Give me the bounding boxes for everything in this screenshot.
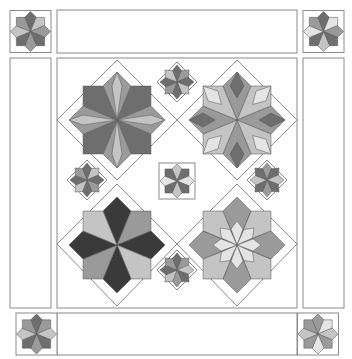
star-icon (304, 12, 344, 52)
left-border-strip (10, 58, 51, 308)
star-icon (17, 314, 57, 354)
star-icon (11, 12, 51, 52)
small-star-bottom (160, 253, 194, 287)
small-star-left (70, 163, 104, 197)
center-star-block (159, 163, 195, 199)
corner-block-bottom-left (16, 313, 57, 355)
quilt-diagram (0, 0, 352, 359)
right-border-strip (303, 58, 344, 308)
large-star-top-right (189, 72, 285, 168)
bottom-border-strip (57, 313, 297, 355)
small-star-right (250, 163, 284, 197)
corner-block-top-left (10, 11, 51, 53)
large-star-top-left (69, 72, 165, 168)
small-star-top (160, 65, 194, 99)
corner-block-bottom-right (298, 313, 339, 355)
corner-block-top-right (303, 11, 344, 53)
star-icon (298, 314, 338, 354)
large-star-bottom-left (69, 197, 165, 293)
large-star-bottom-right (189, 197, 285, 293)
top-border-strip (57, 10, 297, 53)
